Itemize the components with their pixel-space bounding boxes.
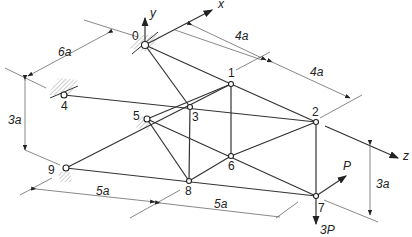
support-9: [58, 172, 72, 182]
node-label-3: 3: [192, 110, 199, 124]
truss-members: [64, 45, 316, 196]
load-p-arrow: [316, 176, 346, 196]
node-label-9: 9: [48, 163, 55, 177]
node-label-6: 6: [228, 159, 235, 173]
node-label-4: 4: [61, 99, 68, 113]
dim-3a-right: 3a: [376, 177, 390, 191]
truss-diagram: y x z P 3P: [0, 0, 412, 237]
x-axis-label: x: [217, 0, 225, 11]
node-label-7: 7: [318, 201, 325, 215]
node-label-2: 2: [312, 105, 319, 119]
load-3p-label: 3P: [320, 223, 335, 237]
node-label-8: 8: [185, 184, 192, 198]
y-axis-label: y: [149, 6, 157, 20]
dim-4a-upper: 4a: [235, 29, 249, 43]
node-label-5: 5: [133, 109, 140, 123]
dim-3a-left: 3a: [8, 113, 22, 127]
node-label-1: 1: [228, 66, 235, 80]
dim-6a: 6a: [58, 45, 72, 59]
dim-5a-right: 5a: [214, 197, 228, 211]
dim-4a-lower: 4a: [310, 65, 324, 79]
node-label-0: 0: [132, 29, 139, 43]
z-axis-label: z: [402, 149, 409, 163]
dim-5a-left: 5a: [96, 184, 110, 198]
z-axis: [325, 126, 398, 158]
load-p-label: P: [343, 159, 351, 173]
